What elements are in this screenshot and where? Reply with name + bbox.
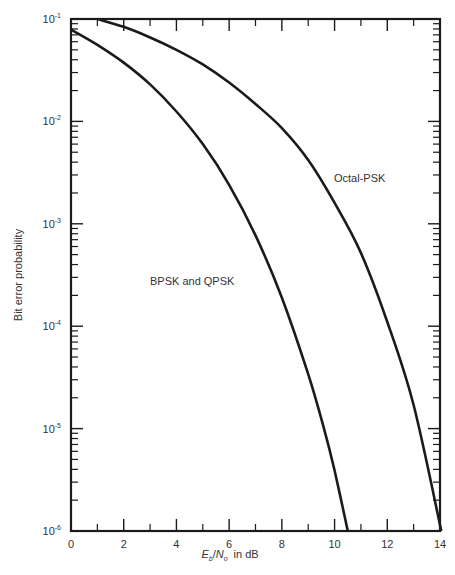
y-tick-label: 10-1	[43, 12, 62, 25]
x-tick-label: 6	[226, 538, 232, 550]
x-axis-label: Eb/Noin dB	[201, 548, 258, 562]
series-label-octal-psk: Octal-PSK	[334, 172, 386, 184]
plot-border	[71, 19, 440, 531]
x-tick-label: 4	[173, 538, 179, 550]
y-tick-label: 10-3	[43, 217, 62, 230]
curves	[71, 19, 441, 531]
x-tick-label: 12	[381, 538, 393, 550]
plot-frame	[71, 19, 440, 531]
y-tick-label: 10-4	[43, 319, 62, 332]
x-tick-label: 0	[68, 538, 74, 550]
y-tick-label: 10-5	[43, 422, 62, 435]
y-axis-label: Bit error probability	[12, 228, 24, 321]
y-tick-label: 10-2	[43, 114, 62, 127]
curve-octal-psk	[97, 19, 441, 531]
series-label-bpsk-qpsk: BPSK and QPSK	[150, 275, 235, 287]
y-tick-label: 10-6	[43, 524, 62, 537]
x-tick-label: 8	[279, 538, 285, 550]
axis-ticks: 0246810121410-110-210-310-410-510-6	[43, 12, 447, 550]
x-tick-label: 14	[434, 538, 446, 550]
ber-chart: 0246810121410-110-210-310-410-510-6 BPSK…	[0, 0, 455, 575]
x-tick-label: 2	[121, 538, 127, 550]
x-tick-label: 10	[328, 538, 340, 550]
